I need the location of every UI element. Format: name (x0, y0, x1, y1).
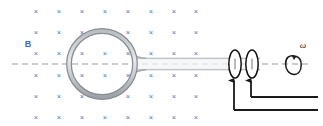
field-into-page-marker: × (34, 7, 38, 16)
field-into-page-marker: × (103, 49, 107, 58)
field-into-page-marker: × (149, 71, 153, 80)
field-into-page-marker: × (34, 49, 38, 58)
field-into-page-marker: × (34, 92, 38, 101)
diagram-canvas: ××××××××××××××××××××××××××××××××××××××××… (0, 0, 323, 126)
field-into-page-marker: × (57, 71, 61, 80)
field-into-page-marker: × (194, 7, 198, 16)
field-into-page-marker: × (126, 28, 130, 37)
field-into-page-marker: × (172, 7, 176, 16)
field-into-page-marker: × (34, 113, 38, 122)
magnetic-induction-diagram: ××××××××××××××××××××××××××××××××××××××××… (0, 0, 323, 126)
field-into-page-marker: × (34, 71, 38, 80)
field-into-page-marker: × (172, 28, 176, 37)
field-into-page-marker: × (57, 49, 61, 58)
field-into-page-marker: × (80, 71, 84, 80)
field-into-page-marker: × (126, 113, 130, 122)
field-into-page-marker: × (149, 49, 153, 58)
field-into-page-marker: × (194, 49, 198, 58)
field-into-page-marker: × (149, 28, 153, 37)
field-into-page-marker: × (172, 92, 176, 101)
field-into-page-marker: × (57, 92, 61, 101)
field-into-page-marker: × (172, 113, 176, 122)
field-into-page-marker: × (172, 49, 176, 58)
field-into-page-marker: × (80, 49, 84, 58)
magnetic-field-label: B (25, 39, 32, 49)
field-into-page-marker: × (172, 71, 176, 80)
angular-velocity-label: ω (300, 40, 306, 50)
field-into-page-marker: × (194, 28, 198, 37)
field-into-page-marker: × (103, 71, 107, 80)
field-into-page-marker: × (103, 7, 107, 16)
field-into-page-marker: × (194, 71, 198, 80)
field-into-page-marker: × (126, 92, 130, 101)
field-into-page-marker: × (34, 28, 38, 37)
field-into-page-marker: × (194, 113, 198, 122)
field-into-page-marker: × (57, 7, 61, 16)
field-into-page-marker: × (57, 113, 61, 122)
field-into-page-marker: × (103, 113, 107, 122)
field-into-page-marker: × (149, 113, 153, 122)
field-into-page-marker: × (126, 7, 130, 16)
field-into-page-marker: × (80, 7, 84, 16)
field-into-page-marker: × (80, 113, 84, 122)
field-into-page-marker: × (149, 92, 153, 101)
field-into-page-marker: × (57, 28, 61, 37)
field-into-page-marker: × (194, 92, 198, 101)
field-into-page-marker: × (149, 7, 153, 16)
